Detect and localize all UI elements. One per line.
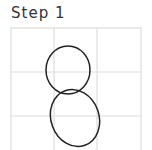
drawing-grid (0, 0, 152, 150)
upper-circle (46, 46, 90, 94)
grid-lines (11, 28, 141, 150)
